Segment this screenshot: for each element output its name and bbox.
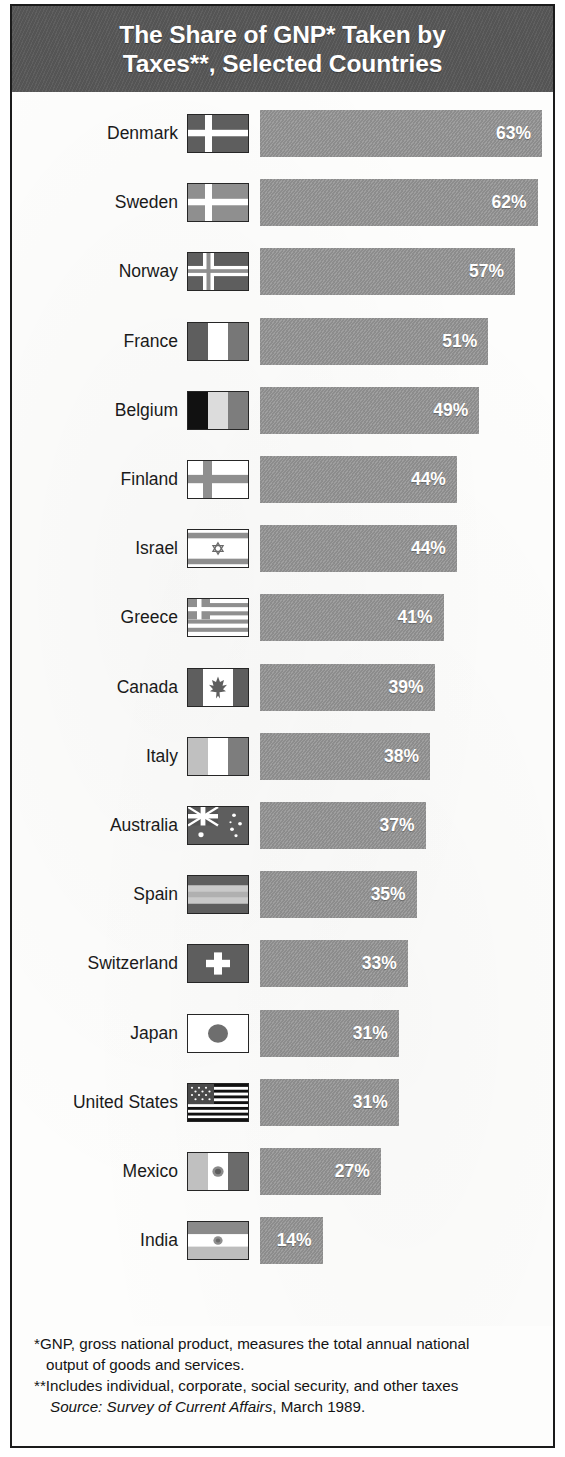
country-label: Greece xyxy=(12,594,178,641)
footnotes: *GNP, gross national product, measures t… xyxy=(12,1326,553,1446)
chart-row: Spain35% xyxy=(12,871,553,918)
country-label: Australia xyxy=(12,802,178,849)
bar-value-label: 14% xyxy=(277,1230,312,1251)
source-rest: , March 1989. xyxy=(272,1398,365,1415)
flag-italy-icon xyxy=(187,737,249,776)
flag-france-icon xyxy=(187,322,249,361)
bar-value-label: 49% xyxy=(433,400,468,421)
bar-value-label: 31% xyxy=(353,1023,388,1044)
bar-value-label: 35% xyxy=(371,884,406,905)
bar-value-label: 62% xyxy=(491,192,526,213)
chart-row: Norway57% xyxy=(12,248,553,295)
chart-row: India14% xyxy=(12,1217,553,1264)
flag-israel-icon xyxy=(187,529,249,568)
bar: 31% xyxy=(260,1010,399,1057)
bar: 63% xyxy=(260,110,542,157)
country-label: Sweden xyxy=(12,179,178,226)
flag-united-states-icon xyxy=(187,1083,249,1122)
country-label: Israel xyxy=(12,525,178,572)
bar: 57% xyxy=(260,248,515,295)
source-italic: Source: Survey of Current Affairs xyxy=(50,1398,272,1415)
bar-value-label: 41% xyxy=(397,607,432,628)
chart-title-band: The Share of GNP* Taken by Taxes**, Sele… xyxy=(12,6,553,92)
chart-row: Italy38% xyxy=(12,733,553,780)
country-label: United States xyxy=(12,1079,178,1126)
country-label: France xyxy=(12,318,178,365)
bar-value-label: 39% xyxy=(389,677,424,698)
bar-chart-plot-area: Denmark63%Sweden62%Norway57%France51%Bel… xyxy=(12,92,553,1326)
bar: 14% xyxy=(260,1217,323,1264)
flag-canada-icon xyxy=(187,668,249,707)
chart-row: Finland44% xyxy=(12,456,553,503)
flag-australia-icon xyxy=(187,806,249,845)
bar: 39% xyxy=(260,664,435,711)
bar: 31% xyxy=(260,1079,399,1126)
chart-row: Canada39% xyxy=(12,664,553,711)
bar-value-label: 38% xyxy=(384,746,419,767)
bar-value-label: 37% xyxy=(380,815,415,836)
country-label: Japan xyxy=(12,1010,178,1057)
country-label: Denmark xyxy=(12,110,178,157)
chart-row: Greece41% xyxy=(12,594,553,641)
country-label: Canada xyxy=(12,664,178,711)
flag-sweden-icon xyxy=(187,183,249,222)
chart-figure: The Share of GNP* Taken by Taxes**, Sele… xyxy=(10,4,555,1448)
bar-value-label: 51% xyxy=(442,331,477,352)
bar: 33% xyxy=(260,940,408,987)
bar-value-label: 33% xyxy=(362,953,397,974)
country-label: Switzerland xyxy=(12,940,178,987)
bar: 49% xyxy=(260,387,479,434)
flag-finland-icon xyxy=(187,460,249,499)
chart-row: Sweden62% xyxy=(12,179,553,226)
chart-row: United States31% xyxy=(12,1079,553,1126)
flag-japan-icon xyxy=(187,1014,249,1053)
country-label: Finland xyxy=(12,456,178,503)
source-line: Source: Survey of Current Affairs, March… xyxy=(34,1397,535,1417)
bar-value-label: 63% xyxy=(496,123,531,144)
country-label: India xyxy=(12,1217,178,1264)
country-label: Norway xyxy=(12,248,178,295)
bar-value-label: 57% xyxy=(469,261,504,282)
chart-row: Mexico27% xyxy=(12,1148,553,1195)
page-title: The Share of GNP* Taken by Taxes**, Sele… xyxy=(119,20,445,79)
chart-row: Australia37% xyxy=(12,802,553,849)
footnote-taxes: **Includes individual, corporate, social… xyxy=(34,1376,535,1396)
bar-value-label: 31% xyxy=(353,1092,388,1113)
bar: 37% xyxy=(260,802,426,849)
bar-value-label: 44% xyxy=(411,469,446,490)
bar: 51% xyxy=(260,318,488,365)
chart-row: France51% xyxy=(12,318,553,365)
flag-greece-icon xyxy=(187,598,249,637)
bar-value-label: 27% xyxy=(335,1161,370,1182)
chart-row: Israel44% xyxy=(12,525,553,572)
chart-row: Belgium49% xyxy=(12,387,553,434)
chart-row: Denmark63% xyxy=(12,110,553,157)
flag-belgium-icon xyxy=(187,391,249,430)
bar: 41% xyxy=(260,594,444,641)
bar: 35% xyxy=(260,871,417,918)
bar-value-label: 44% xyxy=(411,538,446,559)
flag-india-icon xyxy=(187,1221,249,1260)
chart-row: Switzerland33% xyxy=(12,940,553,987)
bar: 62% xyxy=(260,179,538,226)
bar: 27% xyxy=(260,1148,381,1195)
flag-norway-icon xyxy=(187,252,249,291)
footnote-gnp-line1: *GNP, gross national product, measures t… xyxy=(34,1334,535,1354)
country-label: Spain xyxy=(12,871,178,918)
flag-spain-icon xyxy=(187,875,249,914)
country-label: Mexico xyxy=(12,1148,178,1195)
chart-row: Japan31% xyxy=(12,1010,553,1057)
flag-mexico-icon xyxy=(187,1152,249,1191)
country-label: Italy xyxy=(12,733,178,780)
footnote-gnp-line2: output of goods and services. xyxy=(34,1355,535,1375)
flag-switzerland-icon xyxy=(187,944,249,983)
bar: 44% xyxy=(260,525,457,572)
bar: 44% xyxy=(260,456,457,503)
flag-denmark-icon xyxy=(187,114,249,153)
bar: 38% xyxy=(260,733,430,780)
country-label: Belgium xyxy=(12,387,178,434)
